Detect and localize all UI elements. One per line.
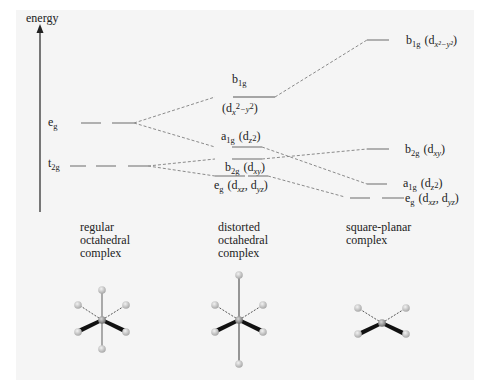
level-label-b1g-sp: b1g(dx²−y²) [406,33,457,49]
distorted-octahedral-molecule-icon [211,271,267,368]
distorted-octahedral-levels: b1g (dx2−y2) a1g(dz2) b2g(dxy) eg(dxz, d… [214,72,275,194]
regular-octahedral-levels: eg t2g [48,115,148,172]
svg-text:octahedral: octahedral [80,233,131,247]
energy-axis: energy [26,11,58,212]
svg-text:regular: regular [80,220,114,234]
level-label-eg-sp: eg(dxz, dyz) [405,191,459,207]
square-planar-levels: b1g(dx²−y²) b2g(dxy) a1g(dz2) eg(dxz, dy… [350,33,459,207]
level-label-t2g: t2g [48,156,61,172]
svg-text:complex: complex [218,246,259,260]
arrow-up-icon [37,24,44,33]
caption-distorted: distorted octahedral complex [218,220,269,260]
level-label-eg: eg [48,115,58,131]
level-label-b1g: b1g [232,72,247,88]
square-planar-molecule-icon [354,304,410,338]
svg-text:octahedral: octahedral [218,233,269,247]
caption-square-planar: square-planar complex [346,220,411,247]
level-label-b2g: b2g(dxy) [225,160,265,176]
regular-octahedral-molecule-icon [74,286,130,353]
svg-text:square-planar: square-planar [346,220,411,234]
svg-text:complex: complex [346,233,387,247]
svg-text:complex: complex [80,246,121,260]
level-label-a1g: a1g(dz2) [221,129,260,145]
caption-regular: regular octahedral complex [80,220,131,260]
level-label-a1g-sp: a1g(dz2) [403,176,442,192]
energy-label: energy [26,11,58,25]
level-label-b2g-sp: b2g(dxy) [405,142,445,158]
svg-text:distorted: distorted [218,220,260,234]
orbital-label-dx2y2: (dx2−y2) [222,101,258,117]
crystal-field-splitting-diagram: energy eg t2g b1g (dx2−y2) a1g(dz2) b2g(… [0,0,489,391]
level-label-eg-distorted: eg(dxz, dyz) [214,178,268,194]
